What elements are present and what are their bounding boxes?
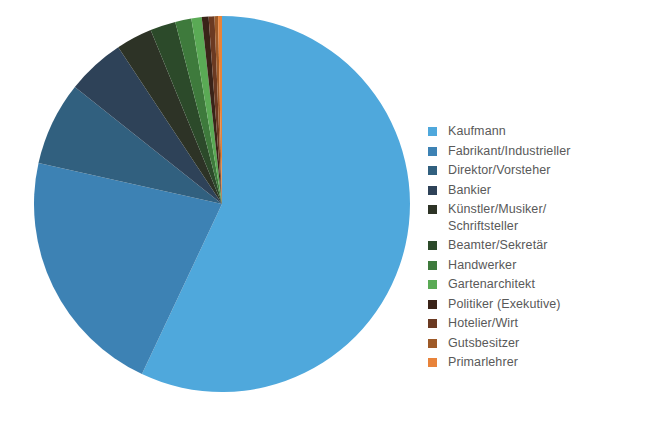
pie-svg bbox=[0, 0, 425, 421]
legend-color-swatch bbox=[428, 127, 437, 136]
legend-color-swatch bbox=[428, 280, 437, 289]
pie-plot-area bbox=[0, 0, 425, 421]
chart-legend: KaufmannFabrikant/IndustriellerDirektor/… bbox=[428, 123, 660, 374]
pie-slice-group bbox=[34, 16, 410, 392]
legend-item[interactable]: Politiker (Exekutive) bbox=[428, 296, 660, 313]
legend-item-label: Gutsbesitzer bbox=[448, 335, 519, 352]
legend-item-label: Beamter/Sekretär bbox=[448, 237, 548, 254]
legend-item-label: Politiker (Exekutive) bbox=[448, 296, 561, 313]
legend-color-swatch bbox=[428, 358, 437, 367]
legend-color-swatch bbox=[428, 147, 437, 156]
legend-item[interactable]: Direktor/Vorsteher bbox=[428, 162, 660, 179]
legend-item-label: Künstler/Musiker/ Schriftsteller bbox=[448, 201, 546, 234]
legend-item-label: Direktor/Vorsteher bbox=[448, 162, 551, 179]
legend-item-label: Primarlehrer bbox=[448, 354, 518, 371]
legend-item[interactable]: Beamter/Sekretär bbox=[428, 237, 660, 254]
legend-item-label: Kaufmann bbox=[448, 123, 506, 140]
legend-item-label: Hotelier/Wirt bbox=[448, 315, 518, 332]
legend-item-label: Fabrikant/Industrieller bbox=[448, 143, 571, 160]
legend-item-label: Gartenarchitekt bbox=[448, 276, 535, 293]
legend-item[interactable]: Hotelier/Wirt bbox=[428, 315, 660, 332]
legend-color-swatch bbox=[428, 300, 437, 309]
legend-item-label: Bankier bbox=[448, 182, 491, 199]
legend-item[interactable]: Fabrikant/Industrieller bbox=[428, 143, 660, 160]
legend-item[interactable]: Handwerker bbox=[428, 257, 660, 274]
legend-color-swatch bbox=[428, 261, 437, 270]
legend-color-swatch bbox=[428, 241, 437, 250]
legend-color-swatch bbox=[428, 166, 437, 175]
legend-item[interactable]: Bankier bbox=[428, 182, 660, 199]
legend-color-swatch bbox=[428, 186, 437, 195]
legend-color-swatch bbox=[428, 339, 437, 348]
legend-color-swatch bbox=[428, 319, 437, 328]
legend-item[interactable]: Gutsbesitzer bbox=[428, 335, 660, 352]
legend-color-swatch bbox=[428, 205, 437, 214]
legend-item[interactable]: Künstler/Musiker/ Schriftsteller bbox=[428, 201, 660, 234]
legend-item-label: Handwerker bbox=[448, 257, 516, 274]
legend-item[interactable]: Gartenarchitekt bbox=[428, 276, 660, 293]
pie-chart-figure: KaufmannFabrikant/IndustriellerDirektor/… bbox=[0, 0, 663, 421]
legend-item[interactable]: Kaufmann bbox=[428, 123, 660, 140]
legend-item[interactable]: Primarlehrer bbox=[428, 354, 660, 371]
